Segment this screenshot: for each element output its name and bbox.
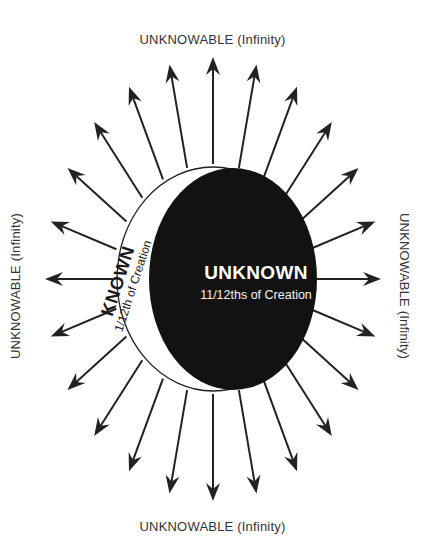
- arrow-shaft: [100, 360, 143, 427]
- arrow-shaft: [100, 130, 143, 197]
- unknowable-label-right: UNKNOWABLE (Infinity): [397, 213, 412, 359]
- arrow-shaft: [300, 175, 351, 222]
- arrow-shaft: [239, 74, 255, 167]
- arrow-shaft: [60, 225, 116, 249]
- arrow-shaft: [310, 225, 366, 249]
- arrow-shaft: [284, 130, 327, 197]
- arrow-shaft: [284, 360, 327, 427]
- unknown-subtitle: 11/12ths of Creation: [170, 288, 342, 302]
- unknowable-label-left: UNKNOWABLE (Infinity): [8, 213, 23, 359]
- arrow-shaft: [300, 337, 351, 384]
- arrow-shaft: [263, 379, 294, 462]
- arrow-shaft: [132, 96, 163, 179]
- arrow-shaft: [132, 379, 163, 462]
- arrow-shaft: [75, 175, 126, 222]
- arrow-shaft: [75, 337, 126, 384]
- arrow-shaft: [171, 390, 187, 483]
- arrow-shaft: [310, 309, 366, 333]
- arrowhead-icon: [94, 417, 110, 436]
- arrow-shaft: [171, 74, 187, 167]
- unknown-title: UNKNOWN: [178, 262, 334, 284]
- arrow-shaft: [263, 96, 294, 179]
- arrowhead-icon: [94, 122, 110, 141]
- unknowable-label-bottom: UNKNOWABLE (Infinity): [0, 519, 425, 534]
- arrow-shaft: [239, 390, 255, 483]
- arrowhead-icon: [316, 417, 332, 436]
- unknowable-label-top: UNKNOWABLE (Infinity): [0, 32, 425, 47]
- arrowhead-icon: [316, 122, 332, 141]
